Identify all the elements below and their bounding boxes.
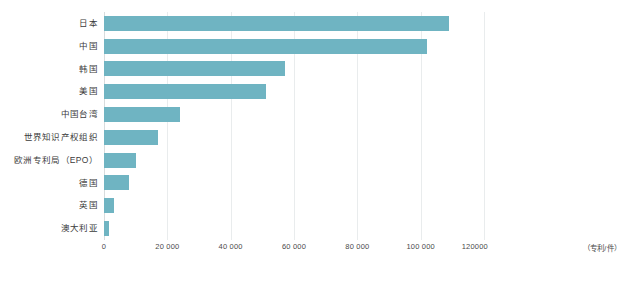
bar-row: [104, 172, 129, 195]
bar-row: [104, 58, 285, 81]
gridline: [484, 12, 485, 240]
bar: [104, 39, 427, 54]
bar-row: [104, 217, 109, 240]
category-label: 美国: [0, 80, 98, 103]
category-axis-labels: 日本中国韩国美国中国台湾世界知识产权组织欧洲专利局（EPO）德国英国澳大利亚: [0, 12, 98, 240]
bar-row: [104, 126, 158, 149]
bar-row: [104, 12, 449, 35]
category-label: 澳大利亚: [0, 217, 98, 240]
bar: [104, 175, 129, 190]
bar: [104, 61, 285, 76]
x-tick-label: 80 000: [345, 242, 369, 251]
bar: [104, 198, 114, 213]
axis-unit-annotation: （专利/件）: [583, 242, 621, 253]
x-tick-label: 0: [102, 242, 106, 251]
bar-row: [104, 194, 114, 217]
category-label: 韩国: [0, 58, 98, 81]
bar: [104, 130, 158, 145]
category-label: 日本: [0, 12, 98, 35]
category-label: 欧洲专利局（EPO）: [0, 149, 98, 172]
bar: [104, 16, 449, 31]
bar-row: [104, 103, 180, 126]
category-label: 世界知识产权组织: [0, 126, 98, 149]
category-label: 德国: [0, 172, 98, 195]
bar-row: [104, 80, 266, 103]
category-label: 中国台湾: [0, 103, 98, 126]
bar: [104, 153, 136, 168]
x-tick-label: 20 000: [155, 242, 179, 251]
bar: [104, 84, 266, 99]
x-tick-label: 60 000: [282, 242, 306, 251]
x-tick-label: 40 000: [219, 242, 243, 251]
x-tick-label: 120000: [462, 242, 488, 251]
category-label: 中国: [0, 35, 98, 58]
bar-row: [104, 149, 136, 172]
plot-area: [104, 12, 484, 240]
category-label: 英国: [0, 194, 98, 217]
x-tick-label: 100 000: [406, 242, 435, 251]
bar-row: [104, 35, 427, 58]
x-axis: 020 00040 00060 00080 000100 000120000（专…: [104, 242, 484, 260]
bar: [104, 221, 109, 236]
bar-series: [104, 12, 484, 240]
bar: [104, 107, 180, 122]
